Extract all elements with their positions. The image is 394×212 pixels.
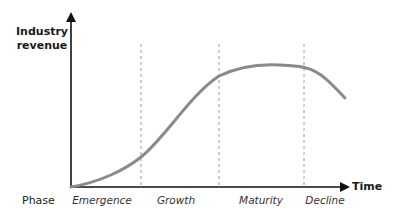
y-axis-arrow-icon	[66, 12, 76, 22]
phase-decline: Decline	[305, 194, 344, 206]
phase-label: Phase	[22, 194, 55, 207]
phase-growth: Growth	[157, 194, 195, 206]
x-axis-arrow-icon	[340, 182, 350, 192]
phase-maturity: Maturity	[239, 194, 283, 206]
phase-emergence: Emergence	[72, 194, 132, 206]
y-axis-label: Industry revenue	[16, 25, 68, 53]
x-axis-label: Time	[352, 180, 382, 193]
y-axis-label-line1: Industry	[16, 25, 68, 39]
y-axis-label-line2: revenue	[16, 39, 68, 53]
revenue-curve	[71, 65, 345, 187]
